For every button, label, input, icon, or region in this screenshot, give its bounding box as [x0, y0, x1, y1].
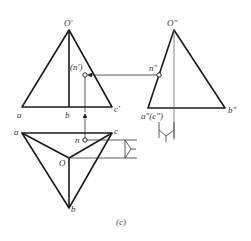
label-top-o: O [59, 158, 66, 168]
side-view-triangle [148, 30, 225, 108]
top-view: a c O b n [14, 126, 137, 214]
dim-symbol-top [125, 140, 136, 158]
label-top-n: n [75, 135, 80, 145]
dim-symbol-side [159, 130, 174, 142]
label-b: b [65, 110, 70, 120]
point-n-prime [83, 73, 87, 77]
label-n-double-prime: n" [149, 63, 158, 73]
three-view-projection-diagram: O' (n') a b c' O" n" a"(c") b" a c O [0, 0, 251, 241]
point-n-double-prime [157, 73, 161, 77]
label-n-prime: (n') [70, 62, 82, 72]
label-a-c-double-prime: a"(c") [141, 111, 163, 121]
figure-caption: (c) [116, 217, 126, 227]
label-top-a: a [14, 127, 19, 137]
point-n [83, 138, 87, 142]
label-b-double-prime: b" [228, 105, 237, 115]
front-view: O' (n') a b c' [17, 18, 121, 120]
label-c-prime: c' [114, 104, 121, 114]
label-top-c: c [114, 126, 118, 136]
label-top-b: b [71, 204, 76, 214]
front-view-triangle [22, 30, 112, 107]
side-view: O" n" a"(c") b" [141, 18, 237, 142]
label-a: a [17, 110, 22, 120]
top-view-triangle [22, 133, 112, 208]
label-o-double-prime: O" [167, 18, 177, 28]
label-o-prime: O' [64, 18, 73, 28]
